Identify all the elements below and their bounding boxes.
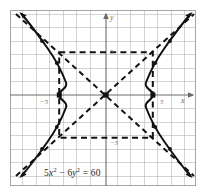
equation-equals-sign: =	[83, 168, 89, 178]
vertex-left-marker	[57, 92, 62, 97]
vertex-right-marker	[150, 92, 155, 97]
center-marker	[103, 92, 108, 97]
equation-annotation: 5x2 − 6y2 = 60	[44, 166, 101, 178]
y-tick-label-positive-5: 5	[110, 48, 114, 56]
hyperbola-graph-figure: x y −5 5 5 −5 5x2 − 6y2 = 60	[0, 0, 205, 196]
equation-right-hand-side: 60	[91, 168, 101, 178]
equation-exponent-y: 2	[77, 166, 80, 173]
x-tick-label-negative-5: −5	[40, 98, 48, 106]
y-axis-label: y	[110, 13, 114, 22]
x-tick-label-positive-5: 5	[160, 98, 164, 106]
equation-minus-sign: −	[59, 168, 65, 178]
x-axis-label: x	[181, 96, 185, 105]
plot-area	[10, 10, 196, 186]
equation-exponent-x: 2	[53, 166, 56, 173]
y-tick-label-negative-5: −5	[110, 139, 118, 147]
